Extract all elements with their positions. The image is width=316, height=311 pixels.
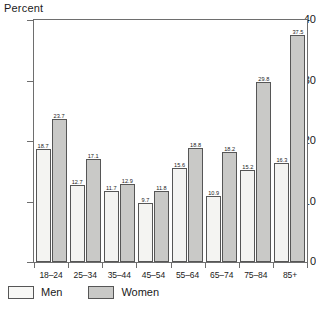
- x-axis-tick-label: 25–34: [74, 270, 97, 280]
- bar-value-label: 29.8: [258, 76, 269, 82]
- x-axis-tick-label: 45–54: [142, 270, 165, 280]
- bar-value-label: 12.9: [122, 178, 133, 184]
- bar-value-label: 10.9: [208, 190, 219, 196]
- legend-swatch-women: [88, 286, 114, 299]
- bar-women: 17.1: [86, 159, 101, 262]
- x-axis-tick: [273, 263, 274, 268]
- bar-women: 37.5: [290, 35, 305, 262]
- bar-women: 18.2: [222, 152, 237, 262]
- chart-legend: Men Women: [8, 286, 159, 299]
- x-axis-tick-label: 65–74: [210, 270, 233, 280]
- bar-value-label: 18.8: [190, 142, 201, 148]
- bar-value-label: 9.7: [142, 197, 150, 203]
- bar-value-label: 23.7: [54, 113, 65, 119]
- bar-women: 29.8: [256, 82, 271, 262]
- x-axis-tick: [307, 263, 308, 268]
- legend-item-women: Women: [88, 286, 159, 299]
- bar-value-label: 15.2: [242, 164, 253, 170]
- bar-value-label: 11.7: [106, 185, 116, 191]
- bar-value-label: 12.7: [72, 179, 83, 185]
- bar-group: 12.717.1: [70, 20, 101, 262]
- bar-group: 15.229.8: [240, 20, 271, 262]
- y-axis-title: Percent: [4, 2, 43, 14]
- bar-men: 16.3: [274, 163, 289, 262]
- bar-women: 12.9: [120, 184, 135, 262]
- x-axis-tick: [34, 263, 35, 268]
- x-axis-tick: [102, 263, 103, 268]
- bar-men: 9.7: [138, 203, 153, 262]
- bar-group: 16.337.5: [274, 20, 305, 262]
- bar-men: 15.2: [240, 170, 255, 262]
- x-axis-tick-label: 75–84: [244, 270, 267, 280]
- x-axis-tick: [205, 263, 206, 268]
- x-axis-tick-label: 18–24: [39, 270, 62, 280]
- bar-value-label: 18.7: [38, 143, 49, 149]
- legend-label-women: Women: [121, 287, 159, 298]
- bar-value-label: 11.8: [156, 185, 166, 191]
- bar-women: 18.8: [188, 148, 203, 262]
- bars-layer: 18.723.712.717.111.712.99.711.815.618.81…: [34, 20, 307, 262]
- bar-group: 9.711.8: [138, 20, 169, 262]
- x-axis-tick-label: 55–64: [176, 270, 199, 280]
- x-axis-tick: [68, 263, 69, 268]
- bar-group: 11.712.9: [104, 20, 135, 262]
- bar-value-label: 37.5: [292, 29, 303, 35]
- bar-chart-figure: Percent 010203040 18.723.712.717.111.712…: [0, 0, 316, 311]
- bar-group: 15.618.8: [172, 20, 203, 262]
- legend-label-men: Men: [41, 287, 62, 298]
- x-axis-tick: [136, 263, 137, 268]
- legend-swatch-men: [8, 286, 34, 299]
- legend-item-men: Men: [8, 286, 62, 299]
- bar-group: 10.918.2: [206, 20, 237, 262]
- x-axis-tick: [171, 263, 172, 268]
- bar-value-label: 16.3: [276, 157, 287, 163]
- bar-men: 10.9: [206, 196, 221, 262]
- bar-group: 18.723.7: [36, 20, 67, 262]
- bar-value-label: 17.1: [88, 153, 99, 159]
- bar-men: 12.7: [70, 185, 85, 262]
- bar-men: 18.7: [36, 149, 51, 262]
- bar-men: 11.7: [104, 191, 119, 262]
- x-axis-tick-label: 85+: [283, 270, 297, 280]
- bar-women: 11.8: [154, 191, 169, 262]
- bar-men: 15.6: [172, 168, 187, 262]
- bar-women: 23.7: [52, 119, 67, 262]
- bar-value-label: 18.2: [224, 146, 235, 152]
- x-axis-tick: [239, 263, 240, 268]
- x-axis-tick-label: 35–44: [108, 270, 131, 280]
- bar-value-label: 15.6: [174, 162, 185, 168]
